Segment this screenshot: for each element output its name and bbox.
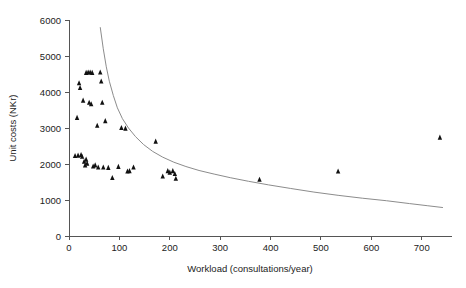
y-tick-label: 1000 [40,195,61,206]
data-point-marker [438,135,442,140]
data-point-marker [153,139,157,144]
data-point-marker [103,118,107,123]
data-point-marker [101,165,105,170]
data-point-marker [100,100,104,105]
fitted-cost-curve [100,27,443,207]
data-point-marker [257,177,261,182]
y-tick-label: 2000 [40,159,61,170]
data-point-marker [99,78,103,83]
x-tick-label: 600 [363,242,379,253]
x-tick-label: 700 [414,242,430,253]
data-point-marker [116,164,120,169]
y-tick-label: 5000 [40,51,61,62]
x-tick-label: 400 [263,242,279,253]
data-point-markers [73,69,442,181]
data-point-marker [174,176,178,181]
data-point-marker [77,80,81,85]
data-point-marker [119,125,123,130]
x-tick-label: 500 [313,242,329,253]
x-axis-ticks: 0100200300400500600700 [66,236,429,253]
data-point-marker [131,165,135,170]
x-tick-label: 200 [162,242,178,253]
x-tick-label: 300 [212,242,228,253]
x-axis-title: Workload (consultations/year) [187,263,313,274]
y-tick-label: 4000 [40,87,61,98]
data-point-marker [161,174,165,179]
data-point-marker [75,115,79,120]
scatter-plot: 0100020003000400050006000 01002003004005… [0,0,466,288]
y-axis-ticks: 0100020003000400050006000 [40,15,69,242]
data-point-marker [78,85,82,90]
chart-figure: 0100020003000400050006000 01002003004005… [0,0,466,288]
y-tick-label: 0 [56,231,61,242]
data-point-marker [106,165,110,170]
x-tick-label: 0 [66,242,71,253]
y-tick-label: 6000 [40,15,61,26]
data-point-marker [95,123,99,128]
y-axis-title: Unit costs (NKr) [7,94,18,161]
data-point-marker [110,175,114,180]
data-point-marker [81,98,85,103]
data-point-marker [98,69,102,74]
x-tick-label: 100 [111,242,127,253]
data-point-marker [336,168,340,173]
y-tick-label: 3000 [40,123,61,134]
data-point-marker [84,157,88,162]
